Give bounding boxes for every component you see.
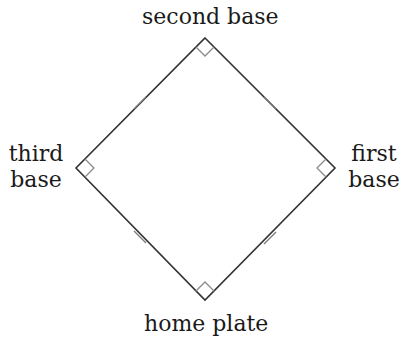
right-angle-mark-third-base bbox=[85, 159, 94, 177]
label-home-plate: home plate bbox=[144, 311, 268, 337]
right-angle-mark-second-base bbox=[196, 47, 214, 56]
label-third-base-line2: base bbox=[4, 167, 68, 193]
label-third-base-line1: third bbox=[4, 141, 68, 167]
right-angle-mark-first-base bbox=[317, 159, 326, 177]
label-first-base-line2: base bbox=[345, 167, 403, 193]
label-second-base: second base bbox=[142, 4, 279, 30]
tick-mark-upper-right bbox=[264, 97, 276, 109]
tick-mark-upper-left bbox=[134, 97, 146, 109]
label-third-base: third base bbox=[4, 141, 68, 193]
label-first-base-line1: first bbox=[345, 141, 403, 167]
label-first-base: first base bbox=[345, 141, 403, 193]
right-angle-mark-home-plate bbox=[196, 282, 214, 291]
diamond-outline bbox=[76, 38, 335, 300]
